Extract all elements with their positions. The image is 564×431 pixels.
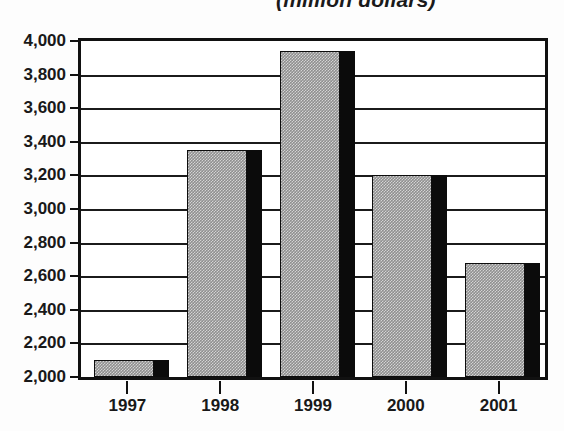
y-axis-tick-label: 3,800 — [4, 65, 66, 85]
gridline — [81, 310, 545, 312]
y-axis-tick-label: 4,000 — [4, 31, 66, 51]
y-axis-tick-label: 2,200 — [4, 333, 66, 353]
y-axis-tick-mark — [70, 275, 80, 277]
gridline — [81, 243, 545, 245]
y-axis-tick-label: 3,400 — [4, 132, 66, 152]
y-axis-tick-label: 2,600 — [4, 266, 66, 286]
y-axis-tick-mark — [70, 309, 80, 311]
gridline — [81, 343, 545, 345]
x-axis-tick-mark — [126, 381, 128, 394]
y-axis-tick-label: 3,600 — [4, 98, 66, 118]
x-axis-tick-label: 2000 — [366, 396, 446, 416]
gridline — [81, 108, 545, 110]
y-axis-tick-mark — [70, 174, 80, 176]
x-axis-tick-mark — [219, 381, 221, 394]
y-axis-tick-label: 2,000 — [4, 367, 66, 387]
y-axis-tick-mark — [70, 40, 80, 42]
gridline — [81, 142, 545, 144]
gridline — [81, 209, 545, 211]
gridline — [81, 276, 545, 278]
y-axis-tick-label: 3,200 — [4, 165, 66, 185]
y-axis-tick-mark — [70, 107, 80, 109]
x-axis-tick-mark — [498, 381, 500, 394]
plot-area — [78, 38, 548, 380]
x-axis-tick-label: 1998 — [180, 396, 260, 416]
gridline — [81, 175, 545, 177]
y-axis-tick-label: 2,800 — [4, 233, 66, 253]
y-axis-tick-mark — [70, 376, 80, 378]
x-axis-tick-label: 2001 — [459, 396, 539, 416]
x-axis-tick-label: 1997 — [87, 396, 167, 416]
y-axis-tick-label: 3,000 — [4, 199, 66, 219]
y-axis-tick-mark — [70, 74, 80, 76]
x-axis-tick-label: 1999 — [273, 396, 353, 416]
y-axis-tick-mark — [70, 141, 80, 143]
gridline — [81, 75, 545, 77]
y-axis-tick-label: 2,400 — [4, 300, 66, 320]
y-axis-tick-mark — [70, 208, 80, 210]
x-axis-tick-mark — [405, 381, 407, 394]
y-axis-tick-mark — [70, 342, 80, 344]
y-axis-tick-mark — [70, 242, 80, 244]
x-axis-tick-mark — [312, 381, 314, 394]
chart-title: (million dollars) — [276, 0, 536, 12]
bar-chart-figure: (million dollars) 4,0003,8003,6003,4003,… — [0, 0, 564, 431]
